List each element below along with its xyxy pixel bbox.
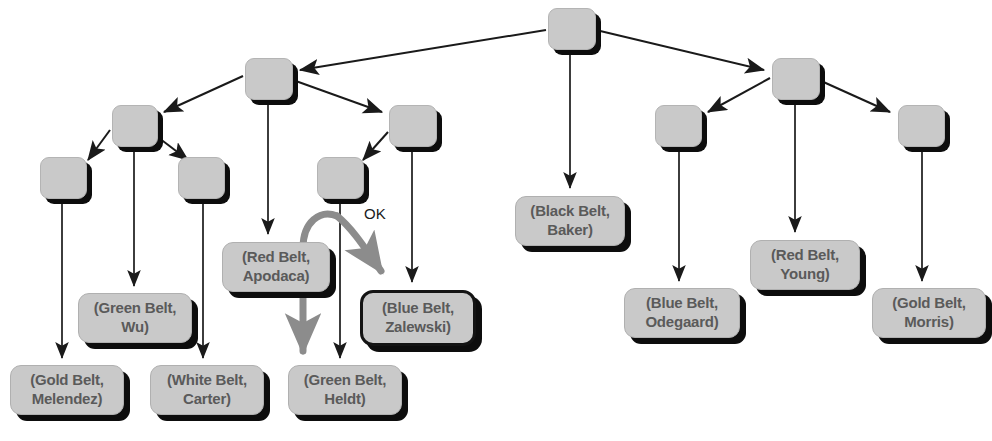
leaf-label-line-1: (Red Belt, — [242, 248, 310, 267]
leaf-label-line-2: Apodaca) — [243, 267, 310, 286]
edge-nl2-to-nl5 — [155, 135, 188, 160]
leaf-label-line-2: Heldt) — [324, 390, 365, 409]
edge-right-to-nr2 — [708, 78, 770, 112]
edge-left-to-nl3 — [293, 80, 382, 112]
leaf-label-green-wu[interactable]: (Green Belt, Wu) — [78, 293, 192, 343]
leaf-label-green-heldt[interactable]: (Green Belt, Heldt) — [288, 365, 402, 415]
edge-layer — [0, 0, 992, 441]
leaf-label-line-1: (Green Belt, — [94, 299, 177, 318]
leaf-label-blue-zalewski[interactable]: (Blue Belt, Zalewski) — [360, 290, 476, 346]
leaf-label-line-2: Odegaard) — [645, 313, 718, 332]
leaf-label-line-1: (Blue Belt, — [382, 299, 454, 318]
edge-root-to-left — [300, 30, 546, 70]
leaf-label-white-carter[interactable]: (White Belt, Carter) — [150, 365, 264, 415]
tree-node-left-c[interactable] — [40, 157, 87, 199]
leaf-label-line-2: Morris) — [904, 313, 953, 332]
tree-node-right-b[interactable] — [898, 105, 945, 147]
leaf-label-line-2: Wu) — [121, 318, 148, 337]
leaf-label-line-1: (Black Belt, — [530, 202, 609, 221]
edge-nl3-to-nl6 — [363, 132, 388, 160]
leaf-label-line-1: (Red Belt, — [771, 246, 839, 265]
leaf-label-blue-odegaard[interactable]: (Blue Belt, Odegaard) — [624, 288, 740, 338]
edge-left-to-nl2 — [164, 76, 243, 112]
leaf-label-black-baker[interactable]: (Black Belt, Baker) — [515, 196, 625, 246]
tree-node-right-a[interactable] — [655, 105, 702, 147]
tree-node-left-e[interactable] — [317, 157, 364, 199]
tree-node-left-d[interactable] — [178, 157, 225, 199]
leaf-label-line-2: Young) — [780, 265, 829, 284]
leaf-label-line-2: Melendez) — [32, 390, 103, 409]
tree-node-right-hub[interactable] — [772, 58, 820, 100]
leaf-label-red-apodaca[interactable]: (Red Belt, Apodaca) — [222, 242, 330, 292]
tree-node-root[interactable] — [548, 8, 596, 50]
leaf-label-gold-melendez[interactable]: (Gold Belt, Melendez) — [10, 365, 124, 415]
leaf-label-gold-morris[interactable]: (Gold Belt, Morris) — [872, 288, 986, 338]
leaf-label-line-1: (Green Belt, — [304, 371, 387, 390]
edge-right-to-nr3 — [819, 80, 890, 112]
leaf-label-line-1: (White Belt, — [167, 371, 247, 390]
highlight-arrow-to-blue-zalewski — [337, 216, 381, 271]
ok-annotation: OK — [364, 205, 386, 222]
edge-nl2-to-nl4 — [88, 130, 110, 160]
leaf-label-line-1: (Blue Belt, — [646, 294, 718, 313]
edge-root-to-right — [596, 30, 764, 70]
tree-node-left-a[interactable] — [112, 105, 158, 147]
leaf-label-line-2: Carter) — [183, 390, 231, 409]
leaf-label-line-2: Zalewski) — [385, 318, 451, 337]
leaf-label-line-1: (Gold Belt, — [892, 294, 966, 313]
tree-node-left-hub[interactable] — [245, 58, 293, 100]
tree-node-left-b[interactable] — [389, 105, 437, 147]
leaf-label-line-2: Baker) — [547, 221, 593, 240]
leaf-label-line-1: (Gold Belt, — [30, 371, 104, 390]
diagram-canvas: (Gold Belt, Melendez) (Green Belt, Wu) (… — [0, 0, 992, 441]
leaf-label-red-young[interactable]: (Red Belt, Young) — [750, 240, 860, 290]
